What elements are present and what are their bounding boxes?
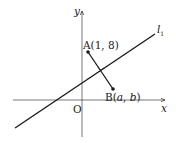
line-l1-label: l1 bbox=[157, 24, 164, 37]
point-a-coords: (1, 8) bbox=[91, 39, 119, 51]
origin-label: O bbox=[73, 104, 82, 115]
diagram-svg bbox=[0, 0, 176, 143]
x-axis-label: x bbox=[161, 103, 167, 114]
point-b-paren-close: ) bbox=[137, 91, 141, 103]
point-a-label: A(1, 8) bbox=[83, 40, 119, 51]
point-b-name: B bbox=[105, 91, 113, 103]
point-b-b: b bbox=[130, 91, 137, 103]
diagram-canvas: y x O l1 A(1, 8) B(a, b) bbox=[0, 0, 176, 143]
point-b-comma: , bbox=[123, 91, 130, 103]
line-l1-label-sub: 1 bbox=[160, 30, 164, 37]
y-axis-label: y bbox=[74, 6, 80, 17]
point-b-label: B(a, b) bbox=[105, 92, 141, 103]
point-a-name: A bbox=[83, 39, 91, 51]
